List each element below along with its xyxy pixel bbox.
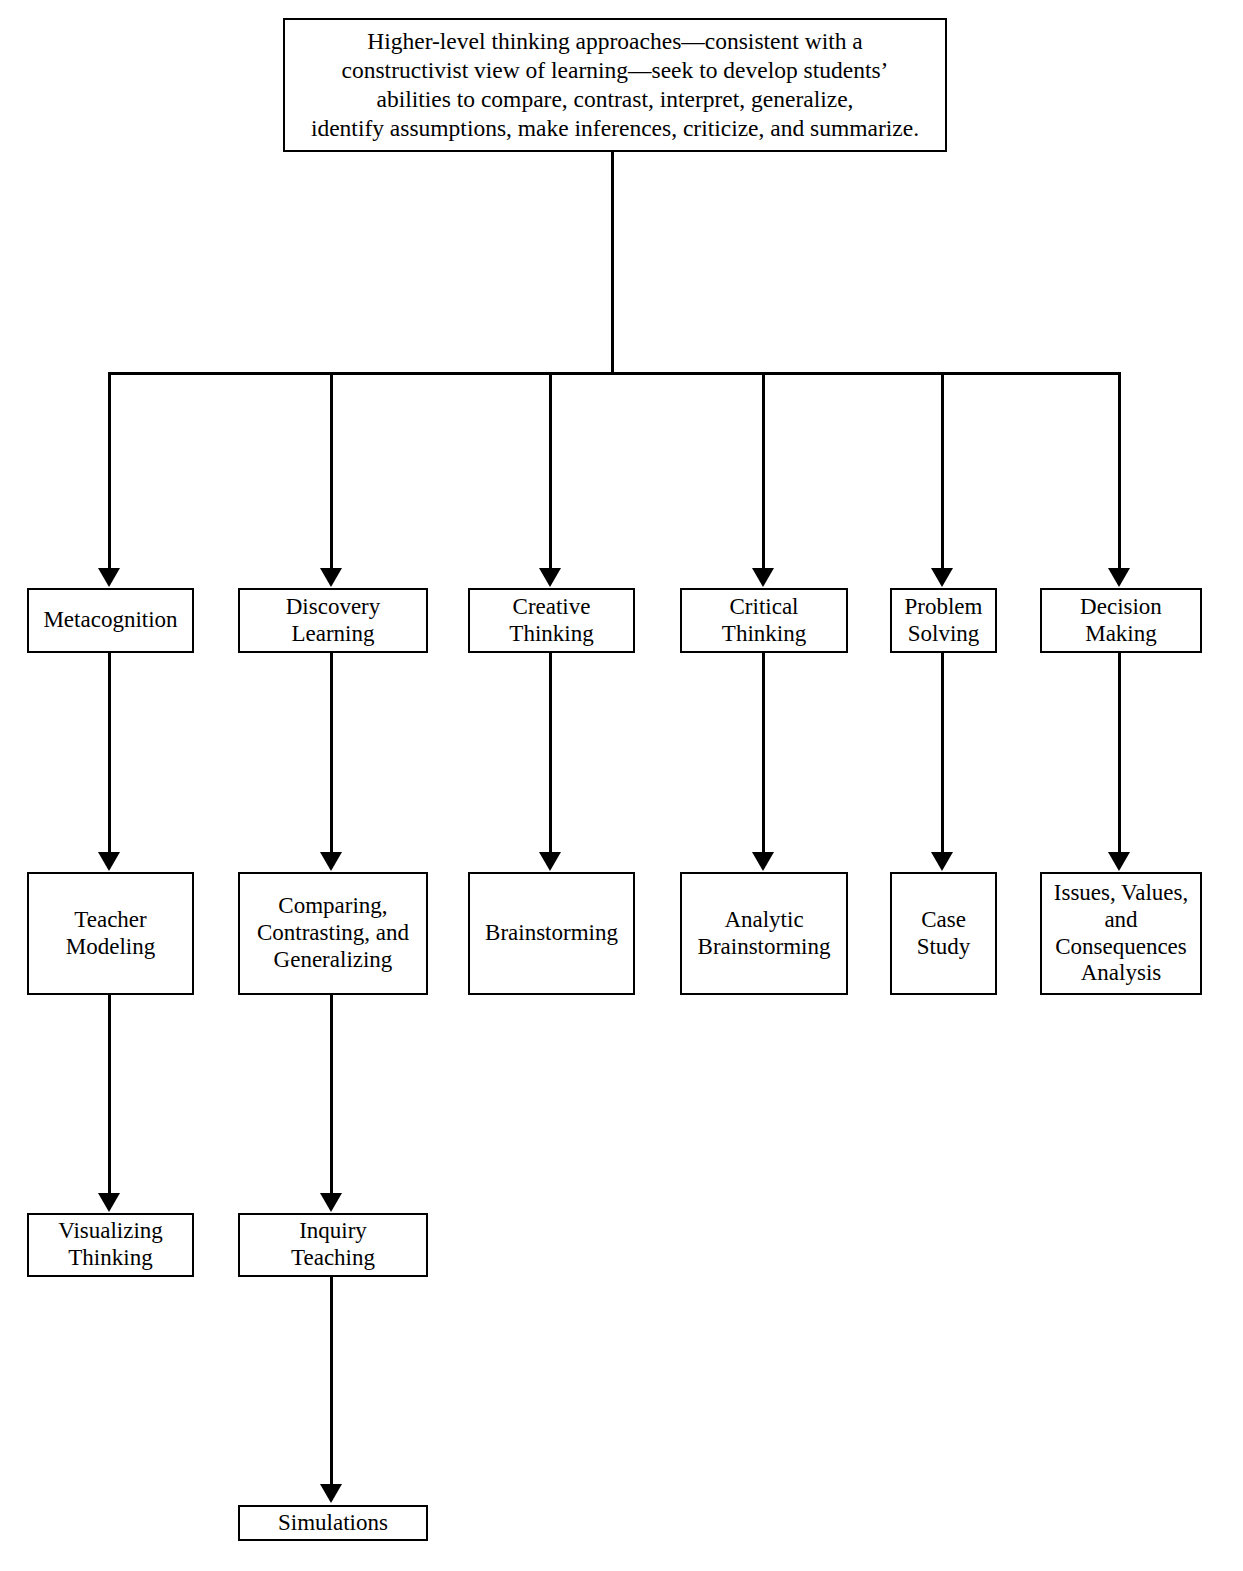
- arrow-teacher-modeling-to-visualizing-thinking: [98, 1193, 120, 1212]
- node-case-study-label: Case Study: [917, 907, 971, 960]
- arrow-comparing-to-inquiry-teaching: [320, 1193, 342, 1212]
- connector-teacher-modeling-to-visualizing-thinking: [108, 995, 111, 1195]
- node-comparing-contrasting-generalizing: Comparing, Contrasting, and Generalizing: [238, 872, 428, 995]
- node-teacher-modeling-label: Teacher Modeling: [66, 907, 155, 960]
- node-inquiry-teaching-label: Inquiry Teaching: [291, 1218, 375, 1271]
- node-case-study: Case Study: [890, 872, 997, 995]
- node-root: Higher-level thinking approaches—consist…: [283, 18, 947, 152]
- connector-creative-thinking-to-brainstorming: [549, 653, 552, 854]
- connector-bus-drop-metacognition: [108, 372, 111, 570]
- arrow-creative-thinking-to-brainstorming: [539, 852, 561, 871]
- diagram-canvas: Higher-level thinking approaches—consist…: [0, 0, 1243, 1571]
- node-critical-thinking-label: Critical Thinking: [722, 594, 806, 647]
- connector-discovery-learning-to-comparing: [330, 653, 333, 854]
- node-creative-thinking-label: Creative Thinking: [509, 594, 593, 647]
- node-metacognition: Metacognition: [27, 588, 194, 653]
- connector-bus-drop-discovery-learning: [330, 372, 333, 570]
- node-comparing-contrasting-generalizing-label: Comparing, Contrasting, and Generalizing: [257, 893, 409, 973]
- connector-bus-drop-problem-solving: [941, 372, 944, 570]
- node-analytic-brainstorming: Analytic Brainstorming: [680, 872, 848, 995]
- node-visualizing-thinking-label: Visualizing Thinking: [58, 1218, 163, 1271]
- node-metacognition-label: Metacognition: [43, 607, 177, 634]
- connector-critical-thinking-to-analytic-brainstorming: [762, 653, 765, 854]
- connector-decision-making-to-issues-values: [1118, 653, 1121, 854]
- connector-bus-drop-decision-making: [1118, 372, 1121, 570]
- arrow-critical-thinking-to-analytic-brainstorming: [752, 852, 774, 871]
- connector-problem-solving-to-case-study: [941, 653, 944, 854]
- node-visualizing-thinking: Visualizing Thinking: [27, 1213, 194, 1277]
- connector-bus-drop-critical-thinking: [762, 372, 765, 570]
- arrow-decision-making-to-issues-values: [1108, 852, 1130, 871]
- arrow-bus-to-creative-thinking: [539, 568, 561, 587]
- node-issues-values-consequences-analysis-label: Issues, Values, and Consequences Analysi…: [1054, 880, 1188, 987]
- node-simulations-label: Simulations: [278, 1510, 388, 1537]
- arrow-metacognition-to-teacher-modeling: [98, 852, 120, 871]
- node-problem-solving-label: Problem Solving: [905, 594, 983, 647]
- node-teacher-modeling: Teacher Modeling: [27, 872, 194, 995]
- node-creative-thinking: Creative Thinking: [468, 588, 635, 653]
- node-critical-thinking: Critical Thinking: [680, 588, 848, 653]
- connector-root-stem: [611, 152, 614, 374]
- arrow-bus-to-discovery-learning: [320, 568, 342, 587]
- node-simulations: Simulations: [238, 1505, 428, 1541]
- arrow-bus-to-problem-solving: [931, 568, 953, 587]
- node-problem-solving: Problem Solving: [890, 588, 997, 653]
- node-decision-making: Decision Making: [1040, 588, 1202, 653]
- arrow-problem-solving-to-case-study: [931, 852, 953, 871]
- connector-distribution-bus: [108, 372, 1121, 375]
- arrow-discovery-learning-to-comparing: [320, 852, 342, 871]
- node-brainstorming-label: Brainstorming: [485, 920, 618, 947]
- arrow-bus-to-metacognition: [98, 568, 120, 587]
- connector-comparing-to-inquiry-teaching: [330, 995, 333, 1195]
- connector-metacognition-to-teacher-modeling: [108, 653, 111, 854]
- arrow-inquiry-teaching-to-simulations: [320, 1484, 342, 1503]
- connector-bus-drop-creative-thinking: [549, 372, 552, 570]
- node-inquiry-teaching: Inquiry Teaching: [238, 1213, 428, 1277]
- node-issues-values-consequences-analysis: Issues, Values, and Consequences Analysi…: [1040, 872, 1202, 995]
- node-brainstorming: Brainstorming: [468, 872, 635, 995]
- node-root-label: Higher-level thinking approaches—consist…: [311, 27, 919, 144]
- node-discovery-learning-label: Discovery Learning: [286, 594, 381, 647]
- arrow-bus-to-critical-thinking: [752, 568, 774, 587]
- node-analytic-brainstorming-label: Analytic Brainstorming: [698, 907, 831, 960]
- connector-inquiry-teaching-to-simulations: [330, 1277, 333, 1486]
- node-discovery-learning: Discovery Learning: [238, 588, 428, 653]
- arrow-bus-to-decision-making: [1108, 568, 1130, 587]
- node-decision-making-label: Decision Making: [1080, 594, 1162, 647]
